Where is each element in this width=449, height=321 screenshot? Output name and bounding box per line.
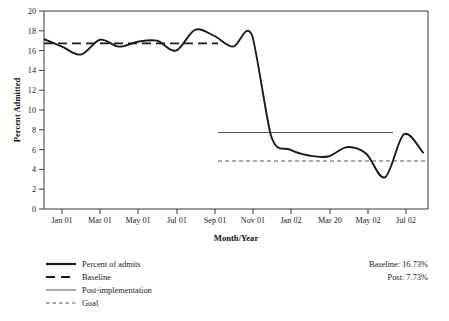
x-tick-label: Sep 01 (204, 216, 227, 225)
y-tick-labels: 20 18 16 14 12 10 8 6 4 2 0 (28, 7, 36, 214)
legend-item-label: Goal (82, 299, 99, 308)
legend-item-label: Percent of admits (82, 260, 141, 269)
x-axis-title: Month/Year (214, 233, 259, 243)
y-tick-label: 12 (28, 86, 36, 95)
y-axis-title: Percent Admitted (12, 78, 22, 143)
x-tick-label: Mar 20 (318, 216, 342, 225)
x-tick-label: May 02 (355, 216, 380, 225)
y-tick-label: 4 (32, 165, 36, 174)
x-tick-label: Jul 01 (167, 216, 187, 225)
baseline-annotation: Baseline: 16.73% (369, 260, 428, 269)
summary-annotations: Baseline: 16.73% Post: 7.73% (369, 260, 428, 282)
x-axis-ticks (62, 209, 406, 214)
y-tick-label: 6 (32, 146, 36, 155)
reference-lines (44, 43, 428, 161)
y-tick-label: 14 (28, 66, 36, 75)
chart-legend: Percent of admits Baseline Post-implemen… (46, 260, 153, 308)
plot-frame (44, 11, 428, 209)
x-tick-label: Jul 02 (396, 216, 416, 225)
y-tick-label: 10 (28, 106, 36, 115)
chart-container: 20 18 16 14 12 10 8 6 4 2 0 Jan 01 (0, 0, 449, 321)
legend-item-label: Post-implementation (82, 286, 153, 295)
y-tick-label: 8 (32, 126, 36, 135)
x-tick-label: May 01 (125, 216, 150, 225)
legend-item-label: Baseline (82, 273, 111, 282)
y-tick-label: 18 (28, 27, 36, 36)
y-tick-label: 2 (32, 185, 36, 194)
y-tick-label: 0 (32, 205, 36, 214)
x-tick-label: Nov 01 (241, 216, 265, 225)
line-chart: 20 18 16 14 12 10 8 6 4 2 0 Jan 01 (0, 0, 449, 321)
x-tick-label: Mar 01 (88, 216, 112, 225)
x-tick-labels: Jan 01 Mar 01 May 01 Jul 01 Sep 01 Nov 0… (51, 216, 415, 225)
x-tick-label: Jan 01 (51, 216, 72, 225)
percent-of-admits-line (43, 29, 423, 177)
y-tick-label: 16 (28, 47, 36, 56)
post-annotation: Post: 7.73% (388, 273, 429, 282)
y-tick-label: 20 (28, 7, 36, 16)
x-tick-label: Jan 02 (280, 216, 301, 225)
y-axis-ticks (39, 11, 44, 209)
